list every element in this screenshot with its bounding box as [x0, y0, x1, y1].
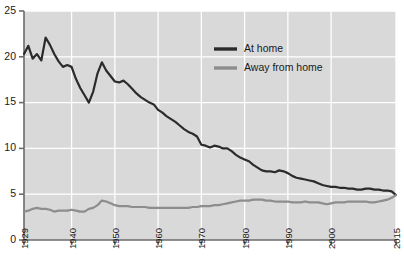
x-tick-label: 1970 [196, 228, 207, 249]
x-tick-label: 1960 [153, 228, 164, 249]
x-tick-label: 1940 [67, 228, 78, 249]
y-tick-label: 25 [4, 4, 16, 16]
line-chart: 0510152025 19291940195019601970198019902… [0, 0, 404, 274]
x-tick-label: 1929 [19, 228, 30, 249]
x-tick-label: 1980 [240, 228, 251, 249]
y-tick-label: 15 [4, 95, 16, 107]
chart-container: 0510152025 19291940195019601970198019902… [0, 0, 404, 274]
y-tick-label: 20 [4, 50, 16, 62]
x-tick-label: 2000 [326, 228, 337, 249]
x-tick-label: 1990 [283, 228, 294, 249]
y-tick-label: 5 [10, 187, 16, 199]
y-axis-tick-labels: 0510152025 [4, 4, 16, 245]
legend-label-at-home: At home [244, 42, 283, 54]
legend-label-away-from-home: Away from home [244, 61, 323, 73]
x-tick-label: 2015 [391, 228, 402, 249]
x-tick-label: 1950 [110, 228, 121, 249]
y-tick-label: 0 [10, 233, 16, 245]
y-tick-label: 10 [4, 141, 16, 153]
